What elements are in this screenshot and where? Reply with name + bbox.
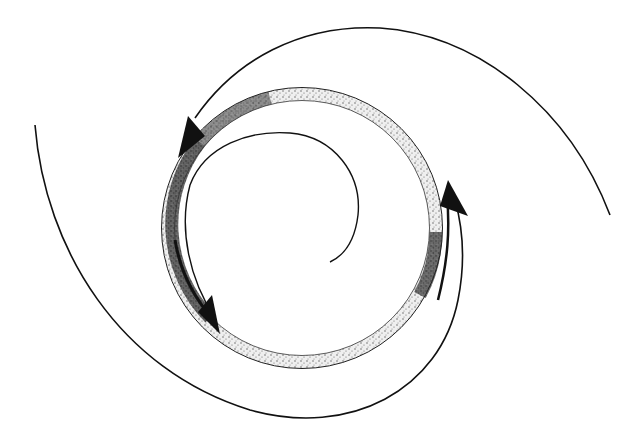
- ring-dark-right: [420, 232, 436, 295]
- spiral-diagram: [0, 0, 637, 448]
- right-arrow-icon: [440, 180, 468, 216]
- outer-spiral-arm-top: [195, 28, 610, 215]
- stippled-ring: [162, 88, 443, 369]
- inner-arc-left: [185, 133, 358, 318]
- outer-spiral-arm-bottom: [35, 125, 462, 418]
